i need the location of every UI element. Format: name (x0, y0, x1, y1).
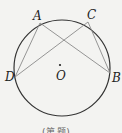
circle-o (14, 20, 110, 116)
geometry-figure: A C D B O (第 题) (0, 0, 122, 133)
figure-caption: (第 题) (42, 126, 70, 133)
label-b: B (111, 71, 121, 85)
segment-ad (15, 23, 40, 77)
label-a: A (32, 9, 42, 23)
label-o: O (56, 69, 66, 83)
center-dot (59, 64, 61, 66)
label-c: C (87, 8, 96, 22)
label-d: D (4, 70, 15, 84)
